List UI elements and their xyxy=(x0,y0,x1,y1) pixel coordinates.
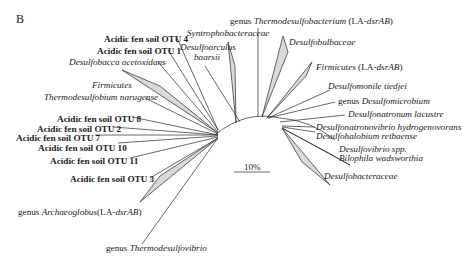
taxon-prefix: genus xyxy=(230,16,254,26)
wedge-syntrophobacteraceae xyxy=(228,42,236,123)
taxon-name: Archaeoglobus xyxy=(42,207,97,217)
wedge-desulfobulbaceae xyxy=(262,36,288,117)
taxon-firmicutes: Firmicutes xyxy=(92,80,132,90)
branch-otu8 xyxy=(132,117,218,135)
taxon-desulfobacca: Desulfobacca acetoxidans xyxy=(69,57,166,67)
taxon-close: ) xyxy=(399,62,402,72)
taxon-suffix: (LA- xyxy=(97,207,115,217)
taxon-name: Thermodesulfovibrio xyxy=(130,243,207,253)
taxon-firmicutes-la: Firmicutes (LA-dsrAB) xyxy=(316,62,403,72)
taxon-thermodesulfobium: Thermodesulfobium narugense xyxy=(44,92,158,102)
taxon-bilophila: Bilophila wadsworthia xyxy=(339,153,423,163)
taxon-syntrophobacteraceae: Syntrophobacteraceae xyxy=(187,28,269,38)
branch-desulfonatronovibrio xyxy=(282,126,315,127)
branch-otu1 xyxy=(168,50,218,130)
taxon-prefix: genus xyxy=(338,96,362,106)
taxon-desulfoarculus-1: Desulfoarculus xyxy=(180,42,236,52)
branch-desulfomonile xyxy=(268,90,330,118)
taxon-close: ) xyxy=(138,207,141,217)
taxon-prefix: genus xyxy=(106,243,130,253)
branch-desulfohalobium xyxy=(282,127,315,132)
taxon-gene: dsrAB xyxy=(376,62,399,72)
taxon-name: Thermodesulfobacterium xyxy=(254,16,346,26)
taxon-otu1: Acidic fen soil OTU 1 xyxy=(97,46,181,56)
taxon-desulfomicrobium: genus Desulfomicrobium xyxy=(338,96,430,106)
taxon-otu11: Acidic fen soil OTU 11 xyxy=(50,156,138,166)
taxon-suffix: (LA- xyxy=(346,16,367,26)
taxon-prefix: genus xyxy=(18,207,42,217)
taxon-thermodesulfobacterium: genus Thermodesulfobacterium (LA-dsrAB) xyxy=(230,16,393,26)
taxon-otu10: Acidic fen soil OTU 10 xyxy=(38,143,127,153)
taxon-otu3: Acidic fen soil OTU 3 xyxy=(70,174,154,184)
scale-bar-label: 10% xyxy=(244,162,261,172)
taxon-archaeoglobus: genus Archaeoglobus(LA-dsrAB) xyxy=(18,207,141,217)
taxon-close: ) xyxy=(390,16,393,26)
taxon-desulfonatronum: Desulfonatronum lacustre xyxy=(348,109,444,119)
panel-label: B xyxy=(16,12,24,27)
taxon-otu7: Acidic fen soil OTU 7 xyxy=(16,133,100,143)
taxon-desulfobacteraceae: Desulfobacteraceae xyxy=(324,171,397,181)
branch-otu10 xyxy=(118,136,218,143)
taxon-gene: dsrAB xyxy=(115,207,138,217)
taxon-desulfoarculus-2: baarsii xyxy=(194,52,220,62)
taxon-suffix: (LA- xyxy=(356,62,377,72)
taxon-name: Firmicutes xyxy=(316,62,356,72)
taxon-otu8: Acidic fen soil OTU 8 xyxy=(57,114,141,124)
branch-otu3 xyxy=(150,138,218,178)
branch-otu2 xyxy=(113,127,218,135)
taxon-desulfobulbaceae: Desulfobulbaceae xyxy=(289,37,355,47)
taxon-name: Desulfomicrobium xyxy=(362,96,430,106)
taxon-thermodesulfovibrio: genus Thermodesulfovibrio xyxy=(106,243,207,253)
taxon-desulfomonile: Desulfomonile tiedjei xyxy=(328,81,407,91)
taxon-otu4: Acidic fen soil OTU 4 xyxy=(104,34,188,44)
taxon-desulfohalobium: Desulfohalobium retbaense xyxy=(316,131,417,141)
branch-desulfonatronum xyxy=(280,115,345,122)
taxon-gene: dsrAB xyxy=(367,16,390,26)
